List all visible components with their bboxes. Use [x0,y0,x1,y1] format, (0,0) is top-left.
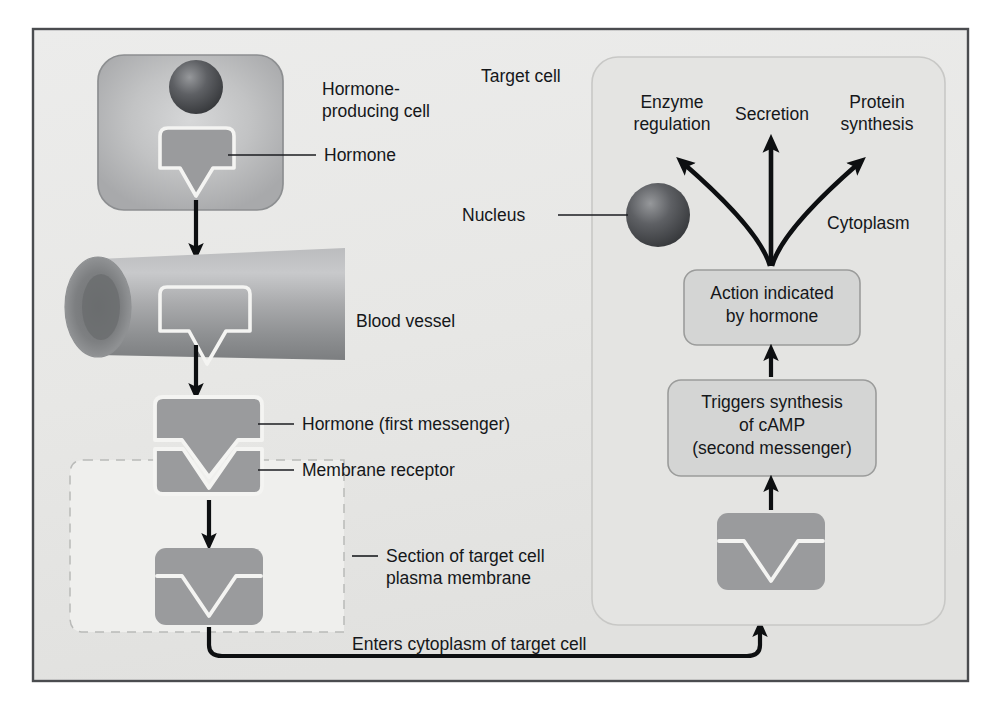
camp-box-line1: Triggers synthesis [701,392,843,412]
nucleus-label: Nucleus [462,205,525,225]
action-indicated-box: Action indicated by hormone [684,270,860,345]
producing-cell-label-line2: producing cell [322,101,430,121]
action-box-line2: by hormone [726,306,818,326]
hormone-first-messenger-label: Hormone (first messenger) [302,414,510,434]
target-nucleus-icon [626,183,690,247]
outcome-0-line2: regulation [634,114,711,134]
figure-root: Hormone- producing cell Hormone Blood ve… [0,0,991,706]
membrane-receptor-label: Membrane receptor [302,460,455,480]
hormone-label: Hormone [324,145,396,165]
hormone-receptor-complex-right [717,513,825,590]
blood-vessel-label-group: Blood vessel [356,311,455,331]
enters-cytoplasm-label: Enters cytoplasm of target cell [352,634,586,654]
blood-vessel-inner-lumen-icon [82,274,120,340]
outcome-1-line1: Secretion [735,104,809,124]
cytoplasm-label: Cytoplasm [827,213,910,233]
hormone-producing-cell [98,55,283,210]
camp-box-line3: (second messenger) [692,438,852,458]
camp-synthesis-box: Triggers synthesis of cAMP (second messe… [668,380,876,476]
outcome-0-line1: Enzyme [640,92,703,112]
membrane-section-label-line1: Section of target cell [386,546,545,566]
camp-box-line2: of cAMP [739,415,805,435]
outcome-2-line1: Protein [849,92,904,112]
blood-vessel [65,248,345,364]
outcome-secretion: Secretion [735,104,809,124]
hormone-receptor-complex-left [155,548,263,625]
producing-cell-label-line1: Hormone- [322,79,400,99]
blood-vessel-label: Blood vessel [356,311,455,331]
target-cell-title: Target cell [481,66,561,86]
hormone-action-diagram: Hormone- producing cell Hormone Blood ve… [0,0,991,706]
action-box-line1: Action indicated [710,283,834,303]
blood-vessel-body [98,248,345,360]
membrane-section-label-line2: plasma membrane [386,568,531,588]
producing-cell-nucleus-icon [169,60,223,114]
outcome-2-line2: synthesis [841,114,914,134]
